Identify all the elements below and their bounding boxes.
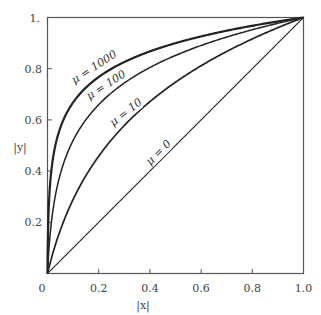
x-tick-label: 0 [39,282,46,295]
x-tick-label: 1.0 [295,282,313,295]
y-tick-label: 0.8 [25,63,43,76]
x-tick-label: 0.2 [90,282,108,295]
y-tick-label: 0.2 [25,216,43,229]
y-tick-label: 0.6 [25,114,43,127]
y-axis-label: |y| [13,141,27,155]
x-axis-label: |x| [136,299,150,313]
x-tick-label: 0.6 [192,282,210,295]
x-ticks [99,269,253,274]
mu-law-chart: 0 0.2 0.4 0.6 0.8 1.0 0.2 0.4 0.6 0.8 1.… [0,0,321,315]
y-tick-label: 0.4 [25,165,43,178]
x-tick-label: 0.8 [244,282,262,295]
x-tick-label: 0.4 [141,282,159,295]
y-tick-label: 1. [30,12,41,25]
